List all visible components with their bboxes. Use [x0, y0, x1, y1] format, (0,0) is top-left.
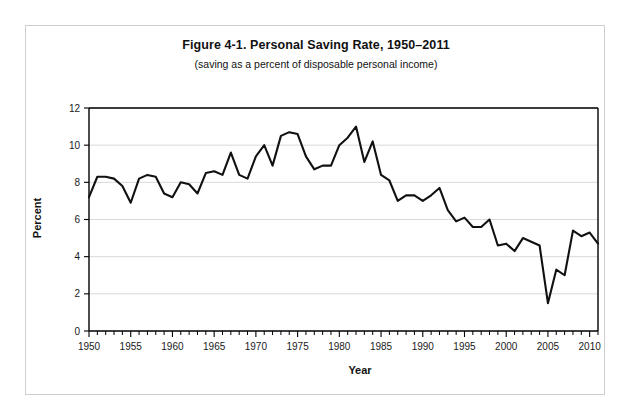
- x-tick-label: 2000: [495, 341, 518, 352]
- y-tick-label: 8: [74, 177, 80, 188]
- y-axis-tick-labels: 024681012: [69, 103, 81, 337]
- x-tick-label: 1960: [161, 341, 184, 352]
- x-tick-label: 1975: [286, 341, 309, 352]
- gridlines: [89, 108, 598, 294]
- x-tick-label: 1950: [78, 341, 101, 352]
- y-tick-label: 2: [74, 288, 80, 299]
- y-tick-label: 0: [74, 326, 80, 337]
- figure-frame: Figure 4-1. Personal Saving Rate, 1950–2…: [25, 25, 605, 395]
- y-tick-label: 10: [69, 140, 81, 151]
- x-tick-label: 1990: [412, 341, 435, 352]
- x-tick-label: 1970: [245, 341, 268, 352]
- x-axis-ticks: [89, 331, 598, 337]
- y-tick-label: 4: [74, 251, 80, 262]
- x-axis-title: Year: [348, 364, 372, 376]
- x-axis-tick-labels: 1950195519601965197019751980198519901995…: [78, 341, 601, 352]
- x-tick-label: 1965: [203, 341, 226, 352]
- personal-saving-rate-line-chart: 1950195519601965197019751980198519901995…: [26, 26, 606, 396]
- x-tick-label: 1980: [328, 341, 351, 352]
- data-series-line: [89, 127, 598, 304]
- x-tick-label: 2005: [537, 341, 560, 352]
- x-tick-label: 1985: [370, 341, 393, 352]
- y-axis-ticks: [84, 108, 89, 331]
- saving-rate-line: [89, 127, 598, 304]
- y-tick-label: 12: [69, 103, 81, 114]
- y-axis-title: Percent: [31, 197, 43, 238]
- y-tick-label: 6: [74, 214, 80, 225]
- x-tick-label: 1955: [120, 341, 143, 352]
- x-tick-label: 2010: [579, 341, 602, 352]
- x-tick-label: 1995: [453, 341, 476, 352]
